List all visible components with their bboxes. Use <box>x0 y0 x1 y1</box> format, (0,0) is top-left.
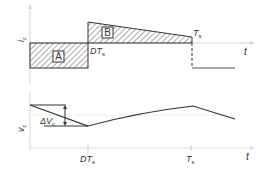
t-label-top: t <box>244 46 248 57</box>
ts-label-top: Ts <box>193 28 202 39</box>
ripple-label: ΔVc <box>39 116 55 127</box>
t-label-bottom: t <box>246 151 250 162</box>
time-axis-bottom-arrow-icon <box>250 146 255 150</box>
ic-label: ic <box>16 37 27 42</box>
current-plot: A B ic DTs Ts t <box>16 4 255 84</box>
capacitor-waveform-diagram: A B ic DTs Ts t <box>0 0 270 179</box>
ic-axis-arrow-icon <box>28 4 32 9</box>
vc-label: vc <box>16 125 27 133</box>
dts-label-top: DTs <box>90 46 105 57</box>
region-b-label: B <box>104 27 111 38</box>
ts-tick-label: Ts <box>186 154 195 165</box>
voltage-plot: vc ΔVc DTs Ts t <box>16 92 255 165</box>
dts-tick-label: DTs <box>80 154 95 165</box>
time-axis-top-arrow-icon <box>250 41 255 45</box>
ripple-arrow-up-icon <box>63 105 67 109</box>
ripple-arrow-down-icon <box>63 122 67 126</box>
region-a-label: A <box>55 51 62 62</box>
